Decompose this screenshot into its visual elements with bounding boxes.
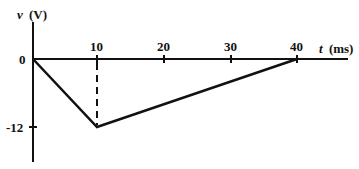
x-axis-label: t (ms) (319, 41, 353, 56)
y-axis-label: v (V) (17, 7, 47, 22)
y-tick-label-minus12: -12 (6, 120, 23, 135)
y-tick-label-0: 0 (19, 52, 26, 67)
voltage-curve (33, 59, 297, 127)
voltage-time-chart: v (V) t (ms) 0 -12 10 20 30 40 (0, 0, 359, 169)
x-tick-label-20: 20 (157, 39, 170, 54)
x-tick-label-30: 30 (224, 39, 237, 54)
x-tick-label-10: 10 (90, 39, 103, 54)
x-tick-label-40: 40 (290, 39, 303, 54)
